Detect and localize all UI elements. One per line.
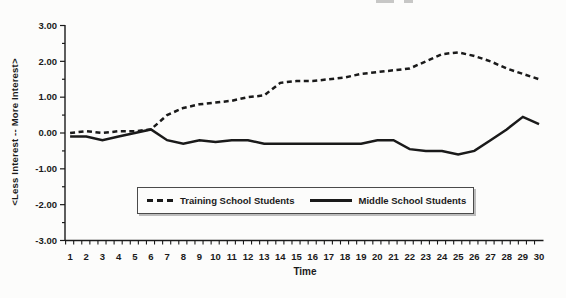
line-chart-figure: 3.002.001.000.00-1.00-2.00-3.00123456789… bbox=[0, 0, 566, 298]
y-tick-label: 0.00 bbox=[39, 127, 58, 138]
x-tick-label: 21 bbox=[388, 251, 399, 262]
x-tick-label: 3 bbox=[100, 251, 105, 262]
x-tick-label: 1 bbox=[67, 251, 73, 262]
x-tick-label: 25 bbox=[453, 251, 464, 262]
x-tick-label: 15 bbox=[291, 251, 302, 262]
x-tick-label: 24 bbox=[437, 251, 448, 262]
y-tick-label: -3.00 bbox=[35, 235, 57, 246]
x-tick-label: 26 bbox=[469, 251, 480, 262]
chart-canvas: 3.002.001.000.00-1.00-2.00-3.00123456789… bbox=[0, 0, 566, 298]
series-line-training bbox=[70, 52, 539, 133]
x-tick-label: 17 bbox=[324, 251, 335, 262]
x-tick-label: 4 bbox=[116, 251, 122, 262]
scan-artifact bbox=[376, 0, 394, 3]
x-tick-label: 16 bbox=[307, 251, 318, 262]
series-line-middle bbox=[70, 117, 539, 155]
x-tick-label: 28 bbox=[501, 251, 512, 262]
x-tick-label: 9 bbox=[197, 251, 202, 262]
y-tick-label: 3.00 bbox=[39, 20, 58, 31]
x-tick-label: 13 bbox=[259, 251, 270, 262]
x-tick-label: 6 bbox=[148, 251, 153, 262]
x-tick-label: 29 bbox=[518, 251, 529, 262]
legend-label-training: Training School Students bbox=[180, 195, 295, 206]
dashed-line-sample-icon bbox=[147, 199, 173, 202]
legend-item-training: Training School Students bbox=[138, 195, 295, 206]
legend-label-middle: Middle School Students bbox=[359, 195, 467, 206]
x-tick-label: 18 bbox=[340, 251, 351, 262]
y-tick-label: 1.00 bbox=[39, 91, 58, 102]
y-axis-title: <Less Interest -- More Interest> bbox=[9, 58, 20, 205]
x-tick-label: 30 bbox=[534, 251, 545, 262]
solid-line-sample-icon bbox=[310, 199, 352, 202]
x-tick-label: 22 bbox=[404, 251, 415, 262]
x-tick-label: 7 bbox=[164, 251, 169, 262]
x-tick-label: 20 bbox=[372, 251, 383, 262]
y-tick-label: -1.00 bbox=[35, 163, 57, 174]
x-tick-label: 11 bbox=[227, 251, 238, 262]
x-tick-label: 2 bbox=[84, 251, 89, 262]
scan-artifact bbox=[404, 0, 413, 3]
y-tick-label: -2.00 bbox=[35, 199, 57, 210]
x-tick-label: 10 bbox=[210, 251, 221, 262]
y-tick-label: 2.00 bbox=[39, 56, 58, 67]
x-tick-label: 19 bbox=[356, 251, 367, 262]
legend-item-middle: Middle School Students bbox=[295, 195, 467, 206]
x-tick-label: 5 bbox=[132, 251, 138, 262]
x-tick-label: 27 bbox=[485, 251, 496, 262]
x-tick-label: 23 bbox=[421, 251, 432, 262]
x-tick-label: 12 bbox=[243, 251, 254, 262]
x-axis-title: Time bbox=[293, 266, 316, 277]
x-tick-label: 8 bbox=[181, 251, 186, 262]
x-tick-label: 14 bbox=[275, 251, 286, 262]
legend: Training School Students Middle School S… bbox=[137, 187, 474, 214]
